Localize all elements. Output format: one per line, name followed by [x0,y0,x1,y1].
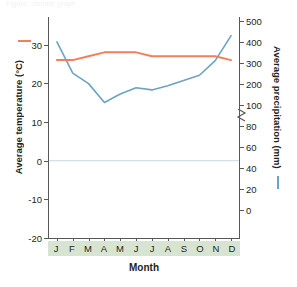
right-tick [239,21,244,22]
right-tick [239,210,244,211]
left-axis-title: Average temperature (°C) [13,60,24,174]
month-label: O [192,241,208,256]
right-tick-label: 300 [246,57,262,68]
month-label: J [48,241,64,256]
month-label: J [144,241,160,256]
right-tick-label: 500 [246,15,262,26]
right-tick-label: 200 [246,78,262,89]
left-tick-label: 30 [31,39,42,50]
month-label: J [128,241,144,256]
x-axis-title: Month [48,262,240,273]
month-label: A [96,241,112,256]
right-tick [239,189,244,190]
right-tick [239,63,244,64]
left-tick-label: -20 [28,233,42,244]
right-axis-title: Average precipitation (mm) [272,46,283,169]
left-tick-label: -10 [28,194,42,205]
top-caption: Figure: climate graph [6,0,206,9]
right-tick-label: 60 [246,142,257,153]
right-tick [239,168,244,169]
left-tick-label: 10 [31,116,42,127]
month-label: D [224,241,240,256]
right-tick-label: 20 [246,183,257,194]
month-label: S [176,241,192,256]
month-band: J F M A M J J A S O N D [48,241,240,256]
temperature-line [57,52,231,60]
precipitation-legend-swatch [277,176,279,189]
right-tick [239,84,244,85]
right-tick-label: 400 [246,36,262,47]
precipitation-line [57,36,231,103]
month-label: A [160,241,176,256]
month-label: M [112,241,128,256]
right-tick-label: 80 [246,121,257,132]
month-label: N [208,241,224,256]
right-tick-label: 40 [246,163,257,174]
right-tick-label: 100 [246,99,262,110]
right-tick [239,105,244,106]
month-label: M [80,241,96,256]
month-label: F [64,241,80,256]
climate-chart-figure: Figure: climate graph Average temperatur… [0,0,297,287]
right-tick [239,42,244,43]
left-tick-label: 20 [31,78,42,89]
series-layer [49,17,239,238]
right-tick [239,126,244,127]
temperature-legend-swatch [18,40,31,42]
left-tick [44,238,49,239]
right-tick-label: 0 [246,204,251,215]
right-tick [239,147,244,148]
left-tick-label: 0 [37,155,42,166]
plot-area: 30 20 10 0 -10 -20 500 400 300 200 100 8… [48,17,240,239]
